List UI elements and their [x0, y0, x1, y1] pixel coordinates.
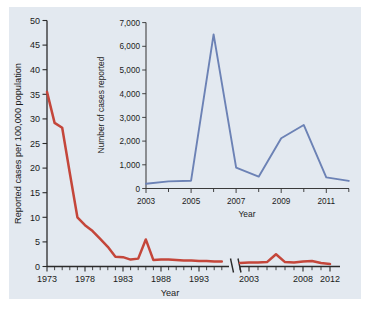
inset-y-tick-label: 6,000	[120, 42, 141, 51]
inset-x-tick-labels: 2003 2005 2007 2009 2011	[137, 197, 336, 206]
main-y-axis-title: Reported cases per 100,000 population	[13, 63, 23, 224]
inset-y-tick-labels: 0 1,000 2,000 3,000 4,000 5,000 6,000 7,…	[120, 19, 141, 194]
main-y-tick-label: 30	[30, 114, 40, 124]
inset-y-tick-label: 4,000	[120, 90, 141, 99]
inset-x-tick-label: 2003	[137, 197, 156, 206]
main-x-tick-label: 1978	[75, 274, 95, 284]
main-y-tick-label: 0	[35, 262, 40, 272]
main-y-tick-label: 45	[30, 40, 40, 50]
main-x-tick-label: 2012	[320, 274, 340, 284]
inset-series-line	[146, 34, 349, 183]
inset-chart: 0 1,000 2,000 3,000 4,000 5,000 6,000 7,…	[96, 19, 349, 219]
inset-x-tick-label: 2011	[317, 197, 335, 206]
main-x-tick-labels: 1973 1978 1983 1988 1993 2003 2008 2012	[37, 274, 340, 284]
main-x-axis-break	[231, 259, 242, 273]
inset-x-tick-label: 2009	[272, 197, 291, 206]
inset-y-tick-label: 0	[135, 185, 140, 194]
inset-x-tick-label: 2005	[182, 197, 201, 206]
main-y-ticks	[43, 21, 48, 267]
main-y-tick-label: 15	[30, 188, 40, 198]
main-y-tick-label: 25	[30, 139, 40, 149]
main-y-tick-label: 50	[30, 16, 40, 26]
figure-page: 0 5 10 15 20 25 30 35 40 45 50 Reported …	[0, 0, 373, 315]
main-x-tick-label: 1988	[151, 274, 171, 284]
main-x-tick-label: 1973	[37, 274, 57, 284]
inset-x-tick-label: 2007	[227, 197, 246, 206]
main-y-tick-labels: 0 5 10 15 20 25 30 35 40 45 50	[30, 16, 40, 272]
main-chart: 0 5 10 15 20 25 30 35 40 45 50 Reported …	[13, 16, 340, 298]
inset-y-tick-label: 3,000	[120, 114, 141, 123]
main-x-tick-label: 2008	[293, 274, 313, 284]
main-y-tick-label: 5	[35, 237, 40, 247]
inset-y-ticks	[142, 23, 146, 189]
main-y-tick-label: 20	[30, 163, 40, 173]
main-x-ticks-right	[240, 267, 330, 272]
main-series-line-right	[240, 254, 330, 264]
main-y-tick-label: 10	[30, 213, 40, 223]
main-x-ticks-left	[47, 267, 222, 272]
main-x-tick-label: 1993	[189, 274, 209, 284]
main-x-tick-label: 1983	[113, 274, 133, 284]
inset-y-tick-label: 2,000	[120, 137, 141, 146]
inset-y-axis-title: Number of cases reported	[96, 56, 106, 153]
main-x-tick-label: 2003	[239, 274, 259, 284]
inset-y-tick-label: 1,000	[120, 161, 141, 170]
inset-x-axis-title: Year	[239, 209, 256, 219]
inset-y-tick-label: 7,000	[120, 19, 141, 28]
inset-y-tick-label: 5,000	[120, 66, 141, 75]
chart-figure: 0 5 10 15 20 25 30 35 40 45 50 Reported …	[0, 0, 373, 315]
main-y-tick-label: 40	[30, 65, 40, 75]
main-x-axis-title: Year	[161, 288, 180, 298]
main-y-tick-label: 35	[30, 90, 40, 100]
inset-x-ticks	[146, 189, 349, 194]
